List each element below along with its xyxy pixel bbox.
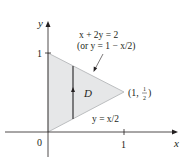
x-axis-label: x [173,137,179,149]
pointer-arrow [95,54,103,69]
lower-boundary-equation: y = x/2 [92,114,119,124]
origin-label: 0 [37,137,42,148]
upper-boundary-alternate: (or y = 1 − x/2) [77,41,135,52]
region-label: D [83,87,92,99]
pointer-arrow-head-icon [94,67,98,73]
y-axis-label: y [37,17,43,29]
y-tick-label-1: 1 [37,48,42,59]
x-axis-arrow-icon [172,130,178,135]
vertex-label-denominator: 2 [143,95,146,101]
diagram-canvas: y x 0 1 1 D x + 2y = 2 (or y = 1 − x/2) … [0,0,183,167]
vertex-label-close: ) [148,87,151,99]
vertex-label-numerator: 1 [143,86,146,92]
vertex-label-open: (1, [128,87,139,99]
vertex-label: (1, 1 2 ) [128,86,151,101]
x-tick-label-1: 1 [121,139,126,150]
upper-boundary-equation: x + 2y = 2 [79,30,118,40]
y-axis-arrow-icon [46,21,51,27]
